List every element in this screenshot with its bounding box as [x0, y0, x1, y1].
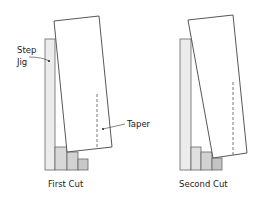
taper-leader-dot — [102, 128, 104, 130]
jig-step-3 — [78, 159, 88, 170]
jig-step-3 — [212, 158, 222, 170]
jig-label-line2: Jig — [16, 57, 27, 67]
jig-step-2 — [67, 152, 78, 170]
taper-label: Taper — [126, 119, 151, 129]
taper-jig-diagram: Step Jig Taper First Cut Second Cut — [0, 0, 263, 198]
jig-label-line1: Step — [17, 45, 36, 55]
workpiece-board — [188, 15, 247, 158]
jig-leader-dot — [48, 60, 50, 62]
jig-step-2 — [201, 152, 212, 170]
second-cut-diagram: Second Cut — [179, 15, 247, 189]
jig-step-1 — [55, 147, 67, 170]
workpiece-board — [54, 16, 112, 152]
jig-bar — [180, 39, 191, 170]
jig-bar — [45, 39, 55, 170]
first-cut-diagram: Step Jig Taper First Cut — [16, 16, 151, 189]
second-cut-caption: Second Cut — [179, 179, 228, 189]
first-cut-caption: First Cut — [48, 179, 84, 189]
jig-step-1 — [191, 147, 201, 170]
